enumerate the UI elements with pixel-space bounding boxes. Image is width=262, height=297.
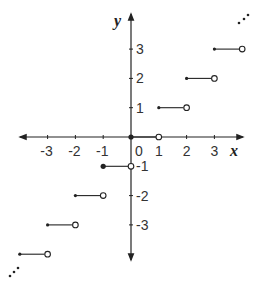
ellipsis-dot bbox=[243, 18, 246, 21]
open-endpoint bbox=[128, 164, 134, 170]
open-endpoint bbox=[184, 105, 190, 111]
ellipsis-dot bbox=[9, 275, 12, 278]
closed-endpoint bbox=[46, 223, 49, 226]
y-tick-label: 1 bbox=[136, 100, 144, 116]
open-endpoint bbox=[156, 134, 162, 140]
open-endpoint bbox=[239, 46, 245, 52]
y-tick-label: -1 bbox=[136, 158, 149, 174]
y-tick-label: 2 bbox=[136, 70, 144, 86]
closed-endpoint bbox=[157, 106, 160, 109]
closed-endpoint bbox=[18, 253, 21, 256]
step-function-chart: -3-2-10123321-1-2-3 x y bbox=[0, 0, 262, 297]
ellipsis-dot bbox=[17, 267, 20, 270]
ellipsis-dot bbox=[238, 22, 241, 25]
y-tick-label: -2 bbox=[136, 188, 149, 204]
closed-endpoint bbox=[128, 134, 133, 139]
closed-endpoint bbox=[101, 164, 106, 169]
x-tick-label: 2 bbox=[183, 143, 191, 159]
closed-endpoint bbox=[213, 48, 216, 51]
y-tick-label: 3 bbox=[136, 41, 144, 57]
x-tick-label: -3 bbox=[40, 143, 53, 159]
open-endpoint bbox=[45, 251, 51, 257]
open-endpoint bbox=[100, 193, 106, 199]
open-endpoint bbox=[73, 222, 79, 228]
x-tick-label: -2 bbox=[68, 143, 81, 159]
x-tick-label: -1 bbox=[96, 143, 109, 159]
closed-endpoint bbox=[74, 194, 77, 197]
x-axis-label: x bbox=[229, 142, 238, 159]
x-tick-label: 3 bbox=[211, 143, 219, 159]
x-tick-label: 0 bbox=[135, 143, 143, 159]
open-endpoint bbox=[212, 76, 218, 82]
closed-endpoint bbox=[185, 77, 188, 80]
ellipsis-dot bbox=[247, 14, 250, 17]
plot-area: -3-2-10123321-1-2-3 x y bbox=[0, 0, 262, 297]
x-tick-label: 1 bbox=[155, 143, 163, 159]
y-axis-label: y bbox=[112, 12, 122, 30]
y-tick-label: -3 bbox=[136, 217, 149, 233]
ellipsis-dot bbox=[13, 271, 16, 274]
